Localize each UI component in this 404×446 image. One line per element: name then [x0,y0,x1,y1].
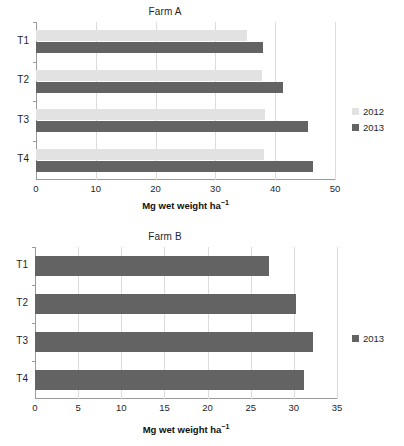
x-tick-label: 20 [202,402,213,413]
x-tick-label: 50 [330,183,341,194]
y-tick-mark [32,323,35,324]
y-tick-mark [33,101,36,102]
legend-item-2012[interactable]: 2012 [352,103,384,119]
x-tick-label: 30 [289,402,300,413]
bar-t4-2013 [35,370,304,390]
bar-t2-2012 [36,70,262,81]
gridline [337,247,338,399]
x-axis-title-farm-a: Mg wet weight ha−1 [36,199,335,211]
gridline [335,22,336,180]
bar-t2-2013 [36,82,283,93]
x-tick-label: 0 [32,402,37,413]
bar-t1-2013 [36,42,263,53]
legend-swatch-icon [352,124,359,131]
x-tick-label: 5 [75,402,80,413]
bar-t1-2013 [35,256,269,276]
y-tick-label-t1: T1 [16,259,28,270]
y-tick-mark [32,285,35,286]
bar-t2-2013 [35,294,296,314]
y-tick-mark [32,361,35,362]
y-tick-mark [33,22,36,23]
legend-label: 2013 [363,333,384,344]
y-tick-label-t2: T2 [17,74,29,85]
x-tick-label: 10 [116,402,127,413]
figure-container: Farm A 01020304050T1T2T3T4 Mg wet weight… [0,0,404,446]
y-tick-label-t4: T4 [16,373,28,384]
x-axis-line-b [35,398,337,399]
x-axis-title-farm-b: Mg wet weight ha−1 [35,423,337,435]
y-tick-mark [33,141,36,142]
legend-item-2013[interactable]: 2013 [352,119,384,135]
x-tick-label: 0 [33,183,38,194]
x-tick-label: 20 [150,183,161,194]
y-tick-label-t2: T2 [16,297,28,308]
legend-farm-a: 20122013 [352,103,384,135]
bar-t3-2013 [35,332,313,352]
chart-title-farm-a: Farm A [0,6,330,17]
x-axis-title-exponent-a: −1 [221,199,229,206]
x-tick-label: 15 [159,402,170,413]
x-tick-label: 30 [210,183,221,194]
gridline [275,22,276,180]
x-axis-line-a [36,179,335,180]
x-tick-label: 10 [91,183,102,194]
bar-t4-2012 [36,149,264,160]
plot-area-farm-b: 05101520253035T1T2T3T4 [35,247,337,399]
x-axis-title-text-b: Mg wet weight ha [143,424,222,435]
x-tick-label: 40 [270,183,281,194]
x-axis-title-exponent-b: −1 [221,423,229,430]
y-tick-label-t3: T3 [16,335,28,346]
y-tick-mark [33,62,36,63]
x-axis-title-text-a: Mg wet weight ha [142,200,221,211]
bar-t3-2012 [36,109,265,120]
bar-t4-2013 [36,161,313,172]
y-tick-label-t1: T1 [17,35,29,46]
legend-label: 2013 [363,122,384,133]
legend-item-2013[interactable]: 2013 [352,330,384,346]
x-tick-label: 35 [332,402,343,413]
y-tick-label-t3: T3 [17,114,29,125]
plot-area-farm-a: 01020304050T1T2T3T4 [36,22,335,180]
legend-swatch-icon [352,335,359,342]
chart-panel-farm-a: Farm A 01020304050T1T2T3T4 Mg wet weight… [0,0,404,225]
bar-t1-2012 [36,30,247,41]
bar-t3-2013 [36,121,308,132]
x-tick-label: 25 [245,402,256,413]
y-tick-label-t4: T4 [17,153,29,164]
legend-swatch-icon [352,108,359,115]
legend-farm-b: 2013 [352,330,384,346]
legend-label: 2012 [363,106,384,117]
chart-title-farm-b: Farm B [0,231,330,242]
y-tick-mark [32,247,35,248]
